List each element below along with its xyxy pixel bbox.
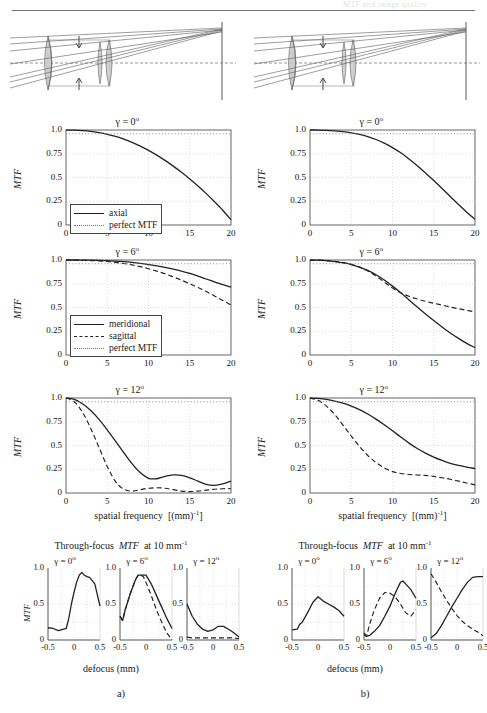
y-tick-a-gamma6-4: 1.0: [26, 254, 62, 264]
legend-a-gamma6: meridionalsagittalperfect MTF: [70, 315, 162, 357]
y-tick-b-gamma6-4: 1.0: [270, 254, 306, 264]
y-tick-a-gamma0-4: 1.0: [26, 124, 62, 134]
tf-plot-a-tf-gamma12: γ = 12o00.51.0-0.500.5: [161, 556, 253, 668]
y-tick-a-gamma12-3: 0.75: [26, 416, 62, 426]
y-tick-a-gamma6-2: 0.5: [26, 302, 62, 312]
legend-label-1: sagittal: [109, 331, 136, 341]
plot-title-a-tf-gamma0: γ = 0o: [54, 554, 76, 566]
x-tick-a-tf-gamma12-0: -0.5: [175, 642, 199, 652]
y-tick-a-gamma0-1: 0.25: [26, 195, 62, 205]
x-tick-b-gamma12-0: 0: [298, 496, 322, 506]
series-sagittal: [66, 398, 231, 492]
x-tick-b-tf-gamma12-2: 0.5: [471, 642, 487, 652]
mtf-plot-b-gamma6: γ = 6oMTF00.250.50.751.005101520: [250, 248, 475, 383]
x-tick-a-gamma0-3: 15: [178, 228, 202, 238]
series-meridional: [66, 398, 231, 485]
legend-swatch-solid: [74, 213, 104, 214]
plot-title-b-gamma6: γ = 6o: [360, 245, 384, 257]
y-tick-a-gamma0-2: 0.5: [26, 172, 62, 182]
y-tick-b-gamma12-4: 1.0: [270, 392, 306, 402]
x-tick-a-gamma12-3: 15: [178, 496, 202, 506]
x-tick-a-gamma6-2: 10: [137, 358, 161, 368]
legend-swatch-solid: [74, 324, 104, 325]
x-tick-a-tf-gamma0-1: 0: [62, 642, 86, 652]
plot-canvas-a-tf-gamma12: [187, 568, 239, 640]
through-focus-title-b: Through-focus MTF at 10 mm-1: [265, 539, 465, 551]
legend-swatch-dot: [74, 348, 104, 349]
legend-row-1: sagittal: [74, 330, 157, 342]
legend-row-2: perfect MTF: [74, 342, 157, 354]
x-tick-b-gamma6-1: 5: [339, 358, 363, 368]
mtf-plot-a-gamma12: γ = 12oMTF00.250.50.751.005101520spatial…: [6, 386, 231, 521]
x-tick-a-gamma12-2: 10: [137, 496, 161, 506]
x-tick-b-gamma12-4: 20: [463, 496, 487, 506]
legend-label-1: perfect MTF: [109, 220, 157, 230]
y-tick-a-tf-gamma0-2: 1.0: [20, 562, 44, 572]
y-tick-b-gamma6-3: 0.75: [270, 278, 306, 288]
lens-ray-diagram-b: [252, 18, 484, 106]
y-tick-b-tf-gamma6-1: 0.5: [336, 598, 360, 608]
panel-label-b: b): [340, 688, 390, 699]
x-tick-b-gamma6-4: 20: [463, 358, 487, 368]
y-tick-b-gamma0-4: 1.0: [270, 124, 306, 134]
legend-swatch-dot: [74, 225, 104, 226]
defocus-label-a: defocus (mm): [56, 663, 166, 674]
x-axis-label-a-gamma12: spatial frequency [(mm)-1]: [66, 509, 231, 521]
x-tick-a-gamma0-4: 20: [219, 228, 243, 238]
y-tick-b-tf-gamma0-1: 0.5: [264, 598, 288, 608]
series-sagittal: [310, 398, 475, 485]
plot-title-b-tf-gamma12: γ = 12o: [437, 554, 463, 566]
y-tick-b-tf-gamma12-2: 1.0: [403, 562, 427, 572]
legend-label-0: axial: [109, 208, 127, 218]
mtf-plot-b-gamma0: γ = 0oMTF00.250.50.751.005101520: [250, 118, 475, 253]
y-tick-a-gamma6-3: 0.75: [26, 278, 62, 288]
y-tick-b-gamma6-2: 0.5: [270, 302, 306, 312]
y-tick-a-gamma12-1: 0.25: [26, 463, 62, 473]
x-tick-b-gamma12-2: 10: [381, 496, 405, 506]
x-tick-b-tf-gamma12-1: 0: [445, 642, 469, 652]
series-meridional: [310, 398, 475, 468]
x-tick-a-tf-gamma12-1: 0: [201, 642, 225, 652]
legend-label-0: meridional: [109, 319, 150, 329]
x-tick-a-gamma6-4: 20: [219, 358, 243, 368]
y-axis-label-b-gamma0: MTF: [256, 169, 267, 189]
plot-title-b-gamma12: γ = 12o: [360, 383, 389, 395]
legend-a-gamma0: axialperfect MTF: [70, 204, 162, 234]
x-tick-a-tf-gamma0-0: -0.5: [36, 642, 60, 652]
series-meridional: [66, 260, 231, 287]
plot-title-b-tf-gamma0: γ = 0o: [298, 554, 320, 566]
x-tick-b-gamma0-2: 10: [381, 228, 405, 238]
x-tick-b-gamma0-4: 20: [463, 228, 487, 238]
plot-title-b-tf-gamma6: γ = 6o: [370, 554, 392, 566]
y-tick-a-gamma0-3: 0.75: [26, 148, 62, 158]
x-tick-a-tf-gamma12-2: 0.5: [227, 642, 251, 652]
x-tick-b-gamma6-3: 15: [422, 358, 446, 368]
plot-title-a-tf-gamma12: γ = 12o: [193, 554, 219, 566]
y-tick-a-gamma12-4: 1.0: [26, 392, 62, 402]
series-meridional: [187, 604, 239, 637]
legend-row-0: meridional: [74, 318, 157, 330]
x-tick-b-gamma0-1: 5: [339, 228, 363, 238]
y-tick-a-tf-gamma0-1: 0.5: [20, 598, 44, 608]
x-tick-b-tf-gamma0-0: -0.5: [280, 642, 304, 652]
plot-canvas-b-gamma0: [310, 130, 475, 225]
mtf-plot-a-gamma0: γ = 0oMTF00.250.50.751.005101520axialper…: [6, 118, 231, 253]
plot-title-a-gamma6: γ = 6o: [116, 245, 140, 257]
x-tick-b-gamma12-1: 5: [339, 496, 363, 506]
plot-title-a-gamma12: γ = 12o: [116, 383, 145, 395]
plot-canvas-b-gamma12: [310, 398, 475, 493]
x-tick-b-tf-gamma0-1: 0: [306, 642, 330, 652]
panel-label-a: a): [96, 688, 146, 699]
x-tick-b-gamma0-3: 15: [422, 228, 446, 238]
x-tick-b-gamma12-3: 15: [422, 496, 446, 506]
legend-row-1: perfect MTF: [74, 219, 157, 231]
y-tick-b-tf-gamma6-2: 1.0: [336, 562, 360, 572]
x-tick-b-tf-gamma12-0: -0.5: [419, 642, 443, 652]
x-tick-b-gamma0-0: 0: [298, 228, 322, 238]
x-tick-a-gamma6-0: 0: [54, 358, 78, 368]
x-tick-b-tf-gamma6-1: 0: [378, 642, 402, 652]
legend-label-2: perfect MTF: [109, 343, 157, 353]
lens-ray-diagram-a: [8, 18, 240, 106]
x-tick-a-gamma6-3: 15: [178, 358, 202, 368]
x-tick-b-tf-gamma6-0: -0.5: [352, 642, 376, 652]
